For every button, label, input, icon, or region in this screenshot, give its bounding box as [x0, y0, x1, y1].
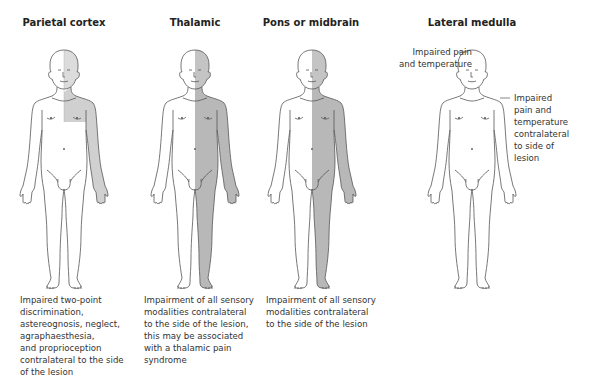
annotation-line: temperature: [514, 116, 569, 128]
annotation-body-lateral-medulla: Impaired pain and temperature contralate…: [514, 92, 569, 164]
leader-line-face: [0, 0, 593, 384]
annotation-line: to side of: [514, 140, 569, 152]
annotation-line: Impaired: [514, 92, 569, 104]
annotation-line: contralateral: [514, 128, 569, 140]
annotation-line: lesion: [514, 152, 569, 164]
annotation-line: pain and: [514, 104, 569, 116]
